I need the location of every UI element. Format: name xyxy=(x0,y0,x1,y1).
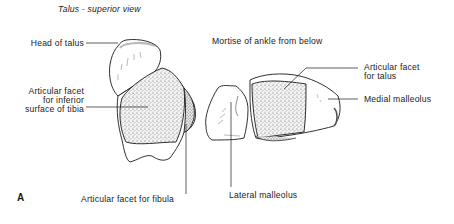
label-lateral-malleolus: Lateral malleolus xyxy=(229,190,297,200)
label-medial-malleolus: Medial malleolus xyxy=(364,94,431,104)
mortise-bones xyxy=(206,74,340,141)
lateral-malleolus-shape xyxy=(206,86,248,141)
label-head-of-talus: Head of talus xyxy=(20,38,84,48)
label-tibial-facet-3: surface of tibia xyxy=(4,104,84,114)
figure-subtitle: Mortise of ankle from below xyxy=(212,36,322,46)
label-fibular-facet: Articular facet for fibula xyxy=(81,194,174,204)
talus-bone xyxy=(109,39,195,162)
figure-title: Talus - superior view xyxy=(58,4,141,14)
panel-letter: A xyxy=(17,192,24,203)
label-talar-facet-2: for talus xyxy=(364,71,396,81)
talar-facet-surface xyxy=(252,81,306,138)
